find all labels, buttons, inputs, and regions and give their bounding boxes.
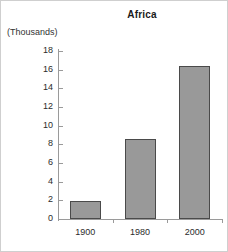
plot-area — [58, 51, 222, 219]
x-axis-line — [58, 219, 222, 220]
x-axis-tick-mark — [167, 219, 168, 223]
y-axis-tick-label: 10 — [43, 120, 53, 130]
y-axis-tick-label: 2 — [48, 194, 53, 204]
y-axis-tick-label: 8 — [48, 138, 53, 148]
x-axis-tick-mark — [113, 219, 114, 223]
x-axis-tick-label: 1980 — [115, 227, 165, 237]
bar — [125, 139, 156, 219]
y-axis-tick: 0 — [58, 219, 63, 220]
x-axis-tick-label: 2000 — [170, 227, 220, 237]
y-axis-tick-label: 16 — [43, 64, 53, 74]
bar-chart-figure: Africa (Thousands) 024681012141618 19001… — [0, 0, 228, 252]
y-axis-unit-caption: (Thousands) — [7, 27, 58, 37]
x-axis-tick-mark — [222, 219, 223, 223]
y-axis-tick-label: 6 — [48, 157, 53, 167]
y-axis-tick-label: 12 — [43, 101, 53, 111]
bar — [70, 201, 101, 219]
y-axis-tick-label: 4 — [48, 176, 53, 186]
bar — [179, 66, 210, 219]
y-axis-tick-label: 14 — [43, 82, 53, 92]
y-axis-tick-label: 18 — [43, 45, 53, 55]
y-axis-tick-label: 0 — [48, 213, 53, 223]
x-axis-tick-label: 1900 — [60, 227, 110, 237]
y-axis-tick-mark — [58, 219, 63, 220]
chart-title: Africa — [58, 9, 226, 20]
